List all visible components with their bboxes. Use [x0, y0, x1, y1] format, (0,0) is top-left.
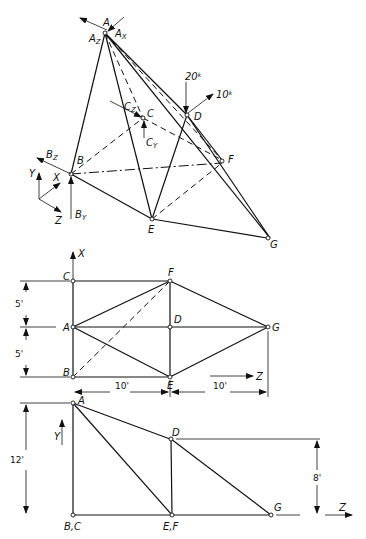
- label-by: BY: [75, 209, 87, 222]
- node-f: [220, 159, 224, 163]
- elev-label-a: A: [77, 395, 85, 406]
- axis-x-label: X: [52, 172, 61, 183]
- elev-axis-y-label: Y: [54, 431, 61, 442]
- label-c: C: [147, 108, 154, 119]
- label-ax: AX: [114, 28, 127, 41]
- elev-dim-8ft: 8': [313, 473, 321, 483]
- label-e: E: [148, 224, 155, 235]
- plan-axis-z-label: Z: [255, 371, 264, 382]
- label-load-20k: 20k: [185, 71, 202, 82]
- plan-label-d: D: [174, 314, 182, 325]
- plan-dim-span1: 10': [115, 381, 129, 391]
- elev-label-bc: B,C: [64, 521, 81, 532]
- label-cz: CZ: [124, 101, 136, 114]
- plan-view: X C F A D G B E 5' 5': [15, 248, 280, 397]
- elev-dim-12ft: 12': [10, 455, 24, 465]
- plan-label-a: A: [62, 322, 70, 333]
- plan-label-g: G: [272, 322, 280, 333]
- node-d: [185, 113, 189, 117]
- plan-label-f: F: [168, 267, 174, 278]
- plan-dim-upper: 5': [15, 299, 23, 309]
- solid-members: [71, 33, 270, 238]
- label-d: D: [194, 111, 202, 122]
- label-g: G: [270, 239, 278, 250]
- node-c: [141, 116, 145, 120]
- label-bz: BZ: [46, 149, 58, 162]
- label-a: A: [102, 17, 110, 28]
- elev-label-d: D: [172, 427, 180, 438]
- plan-dim-lower: 5': [15, 349, 23, 359]
- elev-label-g: G: [274, 502, 282, 513]
- label-load-10k: 10k: [216, 89, 233, 100]
- node-e: [150, 217, 154, 221]
- label-b: B: [77, 155, 84, 166]
- label-f: F: [228, 154, 234, 165]
- elev-axis-z-label: Z: [338, 502, 347, 513]
- elevation-view: A D B,C E,F G Y 12' 8' Z: [10, 395, 352, 532]
- plan-axis-x-label: X: [77, 248, 86, 259]
- plan-label-b: B: [63, 367, 70, 378]
- space-truss-diagram: Y X Z A AZ AX BZ B BY CZ C CY D E F G 20…: [0, 0, 366, 539]
- plan-label-c: C: [63, 271, 70, 282]
- axis-y-label: Y: [29, 168, 36, 179]
- label-cy: CY: [146, 137, 158, 150]
- node-a: [103, 31, 107, 35]
- axis-z-label: Z: [54, 215, 63, 226]
- isometric-view: Y X Z A AZ AX BZ B BY CZ C CY D E F G 20…: [29, 17, 278, 250]
- label-az: AZ: [88, 33, 101, 46]
- dashed-members: [71, 33, 222, 219]
- elev-label-ef: E,F: [163, 521, 178, 532]
- axis-triad: Y X Z: [29, 168, 63, 226]
- plan-label-e: E: [167, 380, 174, 391]
- plan-dim-span2: 10': [213, 381, 227, 391]
